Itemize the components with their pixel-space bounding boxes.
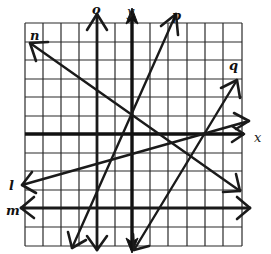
label-l: l (9, 178, 14, 193)
x-axis (25, 126, 244, 142)
coordinate-plane: o y p q n x l m (0, 0, 271, 254)
label-p: p (172, 8, 181, 23)
y-axis (126, 8, 138, 253)
label-q: q (229, 58, 238, 73)
line-p (68, 14, 178, 248)
graph-figure: o y p q n x l m (0, 0, 271, 254)
line-o (87, 14, 107, 250)
label-y-axis: y (126, 4, 135, 19)
label-o: o (92, 2, 101, 17)
label-n: n (30, 28, 39, 43)
line-m (21, 197, 250, 219)
label-x-axis: x (254, 130, 262, 145)
label-m: m (6, 203, 20, 218)
